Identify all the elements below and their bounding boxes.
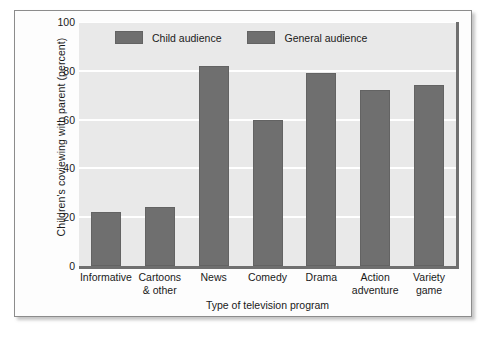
bar [360, 90, 390, 266]
y-tick-label: 60 [47, 114, 75, 126]
chart-figure: Children's coviewing with parent (percen… [0, 0, 491, 337]
bar [414, 85, 444, 266]
bar [306, 73, 336, 266]
plot-inner [79, 22, 456, 266]
bar [91, 212, 121, 266]
plot-area [79, 22, 459, 269]
bar [253, 120, 283, 266]
chart-legend: Child audienceGeneral audience [115, 31, 367, 44]
y-tick-label: 100 [47, 16, 75, 28]
bar [145, 207, 175, 266]
y-tick-label: 40 [47, 162, 75, 174]
legend-item: Child audience [115, 31, 221, 44]
x-tick-label-line: game [393, 284, 465, 297]
legend-swatch-icon [247, 31, 275, 44]
legend-label: General audience [284, 32, 367, 44]
x-tick-label: Varietygame [393, 271, 465, 296]
y-tick-label: 20 [47, 211, 75, 223]
x-axis-label: Type of television program [79, 299, 456, 311]
x-tick-label-line: & other [124, 284, 196, 297]
legend-item: General audience [247, 31, 367, 44]
x-tick-label-line: Variety [393, 271, 465, 284]
bar [199, 66, 229, 266]
gridline [79, 70, 456, 72]
legend-label: Child audience [152, 32, 221, 44]
chart-frame: Children's coviewing with parent (percen… [14, 10, 472, 317]
gridline [79, 22, 456, 23]
legend-swatch-icon [115, 31, 143, 44]
y-tick-label: 80 [47, 65, 75, 77]
